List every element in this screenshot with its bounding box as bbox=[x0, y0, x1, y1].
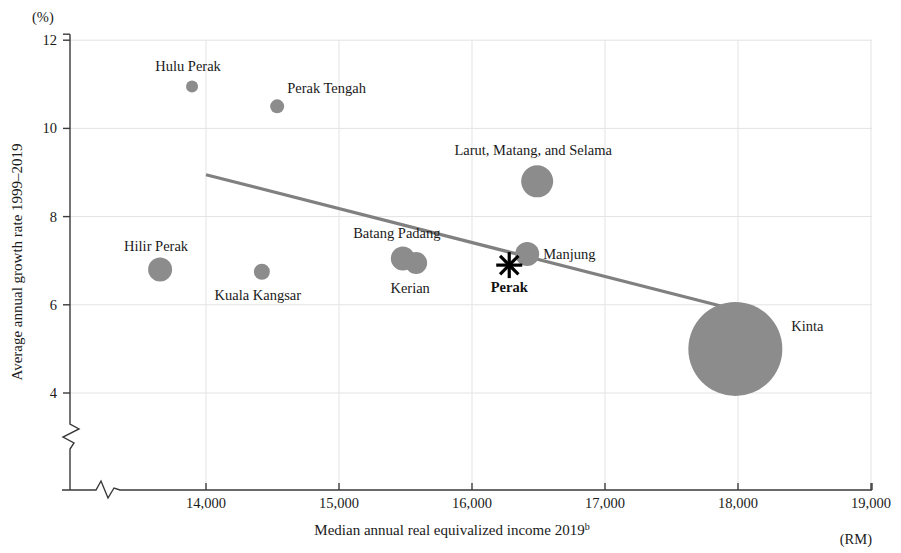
x-tick-label-18000: 18,000 bbox=[718, 495, 758, 511]
reference-marker-perak bbox=[496, 252, 522, 278]
y-axis-unit-label: (%) bbox=[32, 9, 54, 26]
label-larut-matang-and-selama: Larut, Matang, and Selama bbox=[454, 142, 612, 158]
vertical-gridlines bbox=[206, 40, 871, 483]
y-axis-line bbox=[63, 34, 79, 490]
bubble-hilir-perak bbox=[148, 258, 172, 282]
bubble-larut-matang-and-selama bbox=[521, 165, 553, 197]
label-perak-tengah: Perak Tengah bbox=[287, 80, 367, 96]
axes bbox=[62, 34, 872, 498]
y-tick-label-12: 12 bbox=[43, 32, 58, 48]
x-axis-title: Median annual real equivalized income 20… bbox=[314, 521, 589, 538]
x-tick-label-16000: 16,000 bbox=[452, 495, 492, 511]
y-tick-label-6: 6 bbox=[50, 297, 57, 313]
x-axis-unit-label: (RM) bbox=[840, 531, 872, 548]
y-tick-label-4: 4 bbox=[50, 385, 58, 401]
bubble-chart: Hulu PerakPerak TengahLarut, Matang, and… bbox=[0, 0, 901, 553]
y-axis-tick-labels: 4681012 bbox=[43, 32, 58, 401]
label-kuala-kangsar: Kuala Kangsar bbox=[215, 287, 302, 303]
x-tick-label-14000: 14,000 bbox=[186, 495, 226, 511]
bubble-hulu-perak bbox=[186, 81, 198, 93]
x-axis-tick-labels: 14,00015,00016,00017,00018,00019,000 bbox=[186, 495, 891, 511]
y-tick-label-8: 8 bbox=[50, 209, 57, 225]
x-tick-label-17000: 17,000 bbox=[585, 495, 625, 511]
x-tick-label-19000: 19,000 bbox=[851, 495, 891, 511]
label-kinta: Kinta bbox=[791, 318, 824, 334]
label-hulu-perak: Hulu Perak bbox=[155, 58, 221, 74]
bubble-manjung bbox=[515, 242, 539, 266]
bubble-kuala-kangsar bbox=[254, 264, 270, 280]
label-hilir-perak: Hilir Perak bbox=[124, 238, 189, 254]
chart-canvas: Hulu PerakPerak TengahLarut, Matang, and… bbox=[0, 0, 901, 553]
bubble-perak-tengah bbox=[270, 99, 284, 113]
data-bubbles bbox=[148, 81, 782, 396]
bubble-kinta bbox=[688, 302, 782, 396]
bubble-kerian bbox=[405, 252, 427, 274]
label-batang-padang: Batang Padang bbox=[353, 225, 440, 241]
x-tick-label-15000: 15,000 bbox=[319, 495, 359, 511]
y-axis-title: Average annual growth rate 1999–2019 bbox=[9, 143, 25, 380]
label-perak: Perak bbox=[491, 279, 529, 295]
data-point-labels: Hulu PerakPerak TengahLarut, Matang, and… bbox=[124, 58, 824, 334]
label-manjung: Manjung bbox=[543, 246, 595, 262]
y-tick-label-10: 10 bbox=[43, 120, 58, 136]
label-kerian: Kerian bbox=[390, 280, 430, 296]
